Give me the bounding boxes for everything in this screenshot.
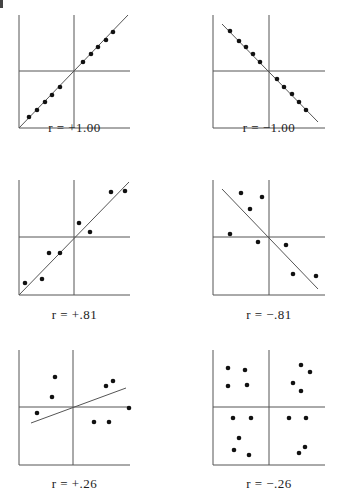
data-point	[104, 384, 109, 389]
data-point	[89, 52, 94, 57]
data-point	[77, 221, 82, 226]
data-point	[23, 281, 28, 286]
data-point	[58, 251, 63, 256]
scatter-panel-2	[213, 15, 325, 128]
data-point	[43, 100, 48, 105]
scatter-panel-5	[19, 350, 131, 465]
label-p1: r = +1.00	[0, 120, 159, 136]
label-p5: r = +.26	[0, 476, 159, 492]
data-point	[237, 39, 242, 44]
regression-line	[31, 388, 126, 423]
data-point	[243, 368, 248, 373]
data-point	[304, 108, 309, 113]
data-point	[92, 420, 97, 425]
data-point	[226, 366, 231, 371]
data-point	[27, 115, 32, 120]
data-point	[47, 251, 52, 256]
data-point	[232, 448, 237, 453]
label-p2: r = −1.00	[185, 120, 338, 136]
data-point	[249, 416, 254, 421]
data-point	[287, 416, 292, 421]
data-point	[109, 190, 114, 195]
scatter-panel-3	[19, 180, 130, 295]
data-point	[81, 60, 86, 65]
data-point	[304, 416, 309, 421]
data-point	[127, 406, 132, 411]
data-point	[314, 274, 319, 279]
data-point	[40, 277, 45, 282]
correlation-scatter-figure	[0, 0, 338, 494]
data-point	[260, 195, 265, 200]
data-point	[58, 85, 63, 90]
data-point	[231, 416, 236, 421]
data-point	[96, 45, 101, 50]
data-point	[299, 363, 304, 368]
data-point	[237, 436, 242, 441]
data-point	[247, 453, 252, 458]
data-point	[228, 232, 233, 237]
data-point	[111, 30, 116, 35]
data-point	[251, 52, 256, 57]
label-p6: r = −.26	[185, 476, 338, 492]
data-point	[290, 92, 295, 97]
data-point	[226, 384, 231, 389]
data-point	[297, 100, 302, 105]
data-point	[258, 60, 263, 65]
data-point	[107, 420, 112, 425]
data-point	[239, 191, 244, 196]
data-point	[228, 29, 233, 34]
data-point	[256, 240, 261, 245]
data-point	[123, 189, 128, 194]
data-point	[104, 38, 109, 43]
data-point	[284, 243, 289, 248]
data-point	[297, 451, 302, 456]
data-point	[35, 411, 40, 416]
regression-line	[222, 189, 318, 289]
data-point	[248, 207, 253, 212]
data-point	[282, 85, 287, 90]
regression-line	[222, 24, 318, 122]
data-point	[88, 230, 93, 235]
data-point	[53, 375, 58, 380]
label-p3: r = +.81	[0, 307, 159, 323]
data-point	[308, 370, 313, 375]
scatter-panel-6	[213, 350, 325, 465]
data-point	[50, 395, 55, 400]
data-point	[275, 77, 280, 82]
data-point	[299, 389, 304, 394]
data-point	[111, 379, 116, 384]
data-point	[50, 93, 55, 98]
data-point	[244, 45, 249, 50]
corner-mark	[0, 0, 3, 8]
label-p4: r = −.81	[185, 307, 338, 323]
scatter-panel-1	[19, 15, 130, 128]
data-point	[245, 383, 250, 388]
data-point	[291, 381, 296, 386]
data-point	[303, 445, 308, 450]
data-point	[35, 108, 40, 113]
data-point	[291, 272, 296, 277]
scatter-panel-4	[213, 180, 325, 295]
